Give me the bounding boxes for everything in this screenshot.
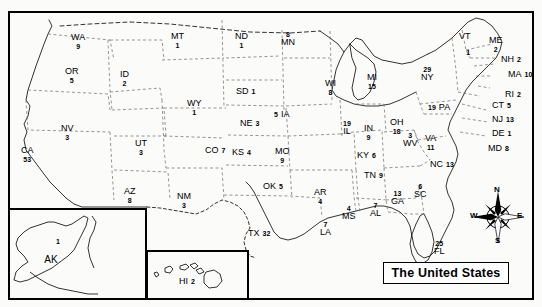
alaska-inset-box (8, 208, 147, 300)
state-abbr: NV (61, 124, 74, 133)
state-label-la: 7LA (320, 220, 331, 237)
state-label-sd: SD1 (236, 87, 255, 96)
state-abbr: MN (281, 38, 295, 47)
state-value: 5 (507, 102, 511, 109)
state-label-ky: KY6 (357, 151, 376, 160)
state-abbr: NJ (492, 114, 503, 124)
state-abbr: KS (232, 147, 244, 157)
state-value: 1 (252, 88, 256, 95)
state-value: 10 (525, 71, 533, 78)
state-abbr: OH (390, 118, 404, 127)
state-abbr: TX (248, 228, 260, 238)
state-label-pa: 19PA (428, 103, 453, 112)
state-value: 13 (446, 161, 454, 168)
state-abbr: IL (343, 127, 351, 136)
state-value: 9 (379, 172, 383, 179)
state-label-in: IN9 (364, 124, 373, 141)
state-abbr: ND (235, 32, 248, 41)
state-abbr: GA (391, 197, 404, 206)
state-label-wv: 3WV (403, 131, 418, 148)
state-value: 32 (263, 230, 271, 237)
us-map-figure: WA9OR5CA53NV3ID2MT1WY1UT3CO7AZ8NM3ND1SD1… (0, 0, 542, 307)
state-value: 1 (56, 238, 60, 245)
state-abbr: ME (489, 36, 503, 45)
state-abbr: IA (281, 109, 290, 119)
compass-west-label: W (470, 211, 478, 220)
state-label-vt: VT1 (459, 32, 471, 56)
state-label-ny: 29NY (421, 65, 434, 82)
state-abbr: PA (439, 102, 450, 112)
state-abbr: KY (357, 150, 369, 160)
state-value: 1 (187, 109, 202, 116)
state-abbr: AZ (124, 187, 136, 196)
state-abbr: NC (430, 159, 443, 169)
state-label-nm: NM3 (177, 192, 191, 209)
state-abbr: TN (364, 170, 376, 180)
state-value: 19 (428, 104, 436, 111)
state-abbr: WV (403, 139, 418, 148)
state-label-or: OR5 (65, 67, 79, 84)
state-abbr: FL (434, 247, 445, 256)
state-abbr: OR (65, 67, 79, 76)
state-label-hi: HI2 (179, 277, 195, 286)
state-label-nh: NH2 (501, 55, 521, 64)
state-value: 13 (506, 116, 514, 123)
state-label-co: CO7 (205, 146, 225, 155)
compass-south-label: S (495, 236, 500, 245)
state-label-ak: 1AK (42, 237, 60, 265)
state-label-md: MD8 (488, 144, 509, 153)
state-label-al: 7AL (370, 201, 381, 218)
state-abbr: CA (21, 146, 34, 155)
state-abbr: OK (263, 181, 276, 191)
state-abbr: UT (135, 139, 147, 148)
state-abbr: NH (501, 54, 514, 64)
state-value: 8 (505, 145, 509, 152)
map-title-box: The United States (383, 262, 509, 284)
compass-rose: N S E W (469, 186, 527, 248)
state-value: 3 (256, 120, 260, 127)
state-value: 5 (279, 183, 283, 190)
state-abbr: VT (459, 32, 471, 41)
state-abbr: VA (425, 134, 436, 143)
state-label-de: DE1 (492, 129, 511, 138)
state-label-ma: MA10 (508, 70, 532, 79)
state-value: 18 (390, 128, 404, 135)
state-abbr: RI (505, 89, 514, 99)
state-label-il: 19IL (343, 119, 351, 136)
map-title: The United States (392, 266, 501, 280)
state-abbr: WY (187, 99, 202, 108)
state-label-sc: 6SC (414, 182, 427, 199)
state-label-mt: MT1 (171, 32, 184, 49)
state-label-ne: NE3 (240, 119, 259, 128)
state-abbr: IN (364, 124, 373, 133)
state-abbr: MI (367, 73, 377, 82)
state-value: 2 (517, 91, 521, 98)
state-label-id: ID2 (120, 70, 129, 87)
state-abbr: LA (320, 228, 331, 237)
state-value: 3 (61, 134, 74, 141)
state-abbr: AL (370, 209, 381, 218)
state-label-tx: TX32 (248, 229, 270, 238)
state-abbr: NY (421, 73, 434, 82)
state-label-ar: AR4 (314, 188, 327, 205)
state-label-nv: NV3 (61, 124, 74, 141)
state-label-ca: CA53 (21, 146, 34, 163)
state-abbr: NM (177, 192, 191, 201)
state-value: 15 (367, 83, 377, 90)
state-label-az: AZ8 (124, 187, 136, 204)
compass-east-label: E (517, 211, 522, 220)
state-label-nj: NJ13 (492, 115, 514, 124)
state-value: 4 (314, 198, 327, 205)
state-label-nd: ND1 (235, 32, 248, 49)
state-label-mn: 8MN (281, 30, 295, 47)
state-label-wi: WI8 (325, 79, 336, 96)
state-label-va: VA11 (425, 134, 436, 151)
state-abbr: MO (275, 147, 290, 156)
state-abbr: CT (492, 100, 504, 110)
state-value: 5 (274, 111, 278, 118)
state-value: 2 (191, 278, 195, 285)
state-value: 5 (65, 77, 79, 84)
state-abbr: AK (42, 255, 60, 265)
state-label-mi: MI15 (367, 73, 377, 90)
state-label-fl: 25FL (434, 239, 445, 256)
